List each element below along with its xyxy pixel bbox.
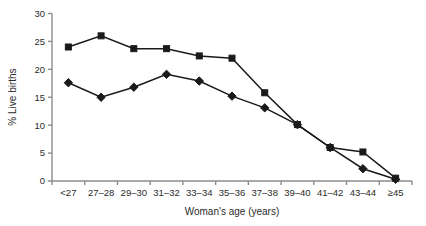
y-tick-label: 5	[40, 147, 45, 158]
x-axis-tick-labels: <2727–2829–3031–3233–3435–3637–3839–4041…	[60, 187, 403, 198]
x-tick-label: 39–40	[284, 187, 310, 198]
y-tick-label: 30	[34, 8, 45, 19]
data-point-diamond	[97, 93, 105, 101]
line-chart: 051015202530 <2727–2829–3031–3233–3435–3…	[0, 0, 426, 226]
data-point-square	[65, 44, 71, 50]
y-tick-label: 15	[34, 92, 45, 103]
data-point-square	[262, 90, 268, 96]
data-point-square	[229, 55, 235, 61]
x-tick-label: ≥45	[388, 187, 404, 198]
series-line-diamond	[68, 74, 395, 179]
series-markers	[64, 33, 400, 184]
y-tick-label: 20	[34, 64, 45, 75]
x-tick-label: 33–34	[186, 187, 212, 198]
x-tick-label: 35–36	[219, 187, 245, 198]
data-point-diamond	[228, 92, 236, 100]
x-tick-label: 31–32	[153, 187, 179, 198]
data-point-diamond	[130, 83, 138, 91]
x-tick-label: <27	[60, 187, 76, 198]
data-point-diamond	[64, 79, 72, 87]
x-tick-label: 41–42	[317, 187, 343, 198]
y-tick-label: 25	[34, 36, 45, 47]
data-point-diamond	[162, 70, 170, 78]
y-axis-title: % Live births	[7, 68, 18, 125]
x-axis-title: Woman's age (years)	[185, 206, 280, 217]
data-point-square	[131, 46, 137, 52]
data-point-diamond	[195, 77, 203, 85]
y-axis-tick-labels: 051015202530	[34, 8, 45, 187]
x-tick-label: 29–30	[121, 187, 147, 198]
data-point-square	[98, 33, 104, 39]
y-tick-label: 10	[34, 120, 45, 131]
data-point-square	[164, 46, 170, 52]
data-point-square	[196, 53, 202, 59]
x-tick-label: 43–44	[350, 187, 376, 198]
data-point-square	[360, 149, 366, 155]
data-point-diamond	[261, 104, 269, 112]
x-tick-label: 27–28	[88, 187, 114, 198]
chart-figure: 051015202530 <2727–2829–3031–3233–3435–3…	[0, 0, 426, 226]
y-tick-label: 0	[40, 175, 45, 186]
data-point-diamond	[359, 165, 367, 173]
x-tick-label: 37–38	[252, 187, 278, 198]
